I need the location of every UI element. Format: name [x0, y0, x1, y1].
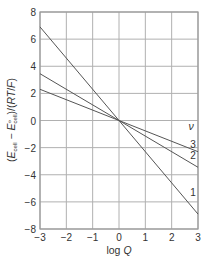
chart: −3−2−10123−8−6−4−202468 log Q (Ecell − E…	[0, 0, 216, 269]
series-label-3: 3	[190, 139, 196, 150]
y-axis-label: (Ecell − E⦵cell)/(RT/F)	[5, 78, 18, 162]
x-tick-label: 1	[143, 232, 149, 243]
tick-labels: −3−2−10123−8−6−4−202468	[25, 7, 202, 243]
y-tick-label: 4	[30, 61, 36, 72]
y-tick-label: 6	[30, 34, 36, 45]
y-tick-label: −4	[25, 170, 37, 181]
x-tick-label: 2	[169, 232, 175, 243]
x-tick-label: 0	[116, 232, 122, 243]
y-tick-label: 8	[30, 7, 36, 18]
x-tick-label: −1	[87, 232, 99, 243]
series-label-1: 1	[190, 187, 196, 198]
y-tick-label: −2	[25, 143, 37, 154]
y-tick-label: 0	[30, 116, 36, 127]
x-axis-label: log Q	[106, 244, 131, 256]
series-label-2: 2	[190, 150, 196, 161]
x-tick-label: 3	[195, 232, 201, 243]
x-tick-label: −3	[34, 232, 46, 243]
x-tick-label: −2	[61, 232, 73, 243]
series-labels: 123	[190, 139, 196, 198]
y-tick-label: −8	[25, 224, 37, 235]
y-tick-label: −6	[25, 197, 37, 208]
legend-title: ν	[188, 120, 194, 132]
y-tick-label: 2	[30, 88, 36, 99]
